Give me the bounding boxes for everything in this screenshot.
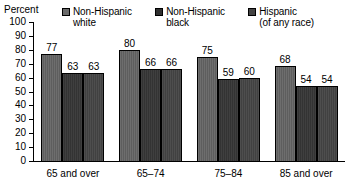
y-axis-tick-label: 30 bbox=[15, 113, 26, 124]
bar-non-hispanic-white: 68 bbox=[275, 66, 296, 161]
legend-swatch-icon-non-hispanic-black bbox=[155, 8, 163, 16]
y-axis-tick-label: 40 bbox=[15, 99, 26, 110]
bar-group: 776363 bbox=[34, 22, 112, 161]
x-axis-category-labels: 65 and over65–7475–8485 and over bbox=[34, 168, 345, 179]
bar-hispanic: 66 bbox=[161, 69, 182, 161]
y-axis-tick: 30 bbox=[29, 119, 33, 120]
plot-area: 0102030405060708090100 77636380666675596… bbox=[33, 22, 345, 162]
bar-hispanic: 54 bbox=[317, 86, 338, 161]
x-axis-category-label: 75–84 bbox=[190, 168, 268, 179]
y-axis-title: Percent bbox=[4, 4, 38, 15]
legend-swatch-icon-hispanic bbox=[248, 8, 256, 16]
bar-value-label: 80 bbox=[124, 38, 135, 49]
bar-value-label: 75 bbox=[202, 45, 213, 56]
y-axis-tick-label: 60 bbox=[15, 72, 26, 83]
x-axis-category-label: 65 and over bbox=[34, 168, 112, 179]
bar-value-label: 66 bbox=[166, 57, 177, 68]
bar-value-label: 77 bbox=[46, 42, 57, 53]
x-axis-category-label: 85 and over bbox=[267, 168, 345, 179]
bar-hispanic: 60 bbox=[239, 78, 260, 161]
bar-value-label: 60 bbox=[244, 66, 255, 77]
y-axis-tick-label: 0 bbox=[20, 155, 26, 166]
y-axis-tick: 20 bbox=[29, 133, 33, 134]
bar-group: 685454 bbox=[267, 22, 345, 161]
bar-value-label: 63 bbox=[88, 61, 99, 72]
y-axis-tick: 60 bbox=[29, 78, 33, 79]
bar-value-label: 66 bbox=[145, 57, 156, 68]
y-axis-tick: 90 bbox=[29, 36, 33, 37]
y-axis-tick-label: 80 bbox=[15, 44, 26, 55]
bar-non-hispanic-black: 59 bbox=[218, 79, 239, 161]
bar-group: 806666 bbox=[112, 22, 190, 161]
y-axis-tick: 70 bbox=[29, 64, 33, 65]
y-axis-tick: 0 bbox=[29, 161, 33, 162]
bar-value-label: 68 bbox=[280, 54, 291, 65]
y-axis-tick-label: 20 bbox=[15, 127, 26, 138]
bar-non-hispanic-black: 54 bbox=[296, 86, 317, 161]
x-axis-category-label: 65–74 bbox=[112, 168, 190, 179]
y-axis-tick-label: 70 bbox=[15, 58, 26, 69]
y-axis-tick: 50 bbox=[29, 92, 33, 93]
bar-hispanic: 63 bbox=[83, 73, 104, 161]
bar-value-label: 54 bbox=[322, 74, 333, 85]
y-axis-tick-label: 10 bbox=[15, 141, 26, 152]
bar-non-hispanic-black: 63 bbox=[62, 73, 83, 161]
bar-chart: Percent Non-Hispanic white Non-Hispanic … bbox=[0, 0, 353, 195]
y-axis-tick-label: 100 bbox=[9, 16, 26, 27]
y-axis-tick: 100 bbox=[29, 22, 33, 23]
bar-non-hispanic-white: 80 bbox=[119, 50, 140, 161]
y-axis-tick: 10 bbox=[29, 147, 33, 148]
legend-swatch-icon-non-hispanic-white bbox=[62, 8, 70, 16]
bar-value-label: 59 bbox=[223, 67, 234, 78]
bar-non-hispanic-white: 77 bbox=[41, 54, 62, 161]
bar-non-hispanic-black: 66 bbox=[140, 69, 161, 161]
bar-value-label: 54 bbox=[301, 74, 312, 85]
bar-non-hispanic-white: 75 bbox=[197, 57, 218, 161]
y-axis-tick: 80 bbox=[29, 50, 33, 51]
bar-group: 755960 bbox=[190, 22, 268, 161]
y-axis-tick-label: 50 bbox=[15, 86, 26, 97]
bar-groups: 776363806666755960685454 bbox=[34, 22, 345, 161]
y-axis-tick-label: 90 bbox=[15, 30, 26, 41]
bar-value-label: 63 bbox=[67, 61, 78, 72]
x-axis-line bbox=[33, 161, 345, 162]
y-axis-tick: 40 bbox=[29, 105, 33, 106]
